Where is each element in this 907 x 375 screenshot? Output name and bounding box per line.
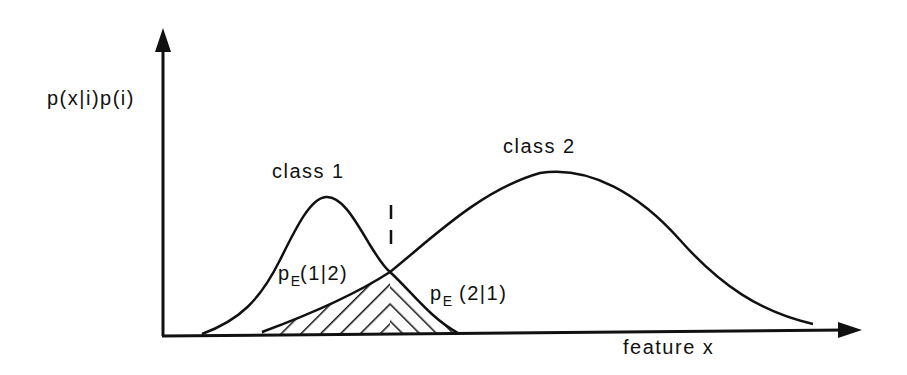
class-2-label: class 2: [503, 135, 576, 158]
x-axis-label: feature x: [623, 336, 714, 359]
error-right-p: p: [430, 282, 443, 304]
y-axis-label: p(x|i)p(i): [47, 87, 135, 110]
error-left-sub: E: [291, 273, 300, 289]
diagram-canvas: [0, 0, 907, 375]
error-label-left: pE(1|2): [278, 262, 348, 285]
error-right-sub: E: [443, 293, 452, 309]
class-1-label: class 1: [272, 160, 345, 183]
error-right-args: (2|1): [452, 282, 507, 304]
error-label-right: pE (2|1): [430, 282, 507, 305]
error-left-args: (1|2): [300, 262, 348, 284]
y-axis-arrow-icon: [155, 28, 171, 52]
x-axis-arrow-icon: [838, 322, 862, 338]
error-left-p: p: [278, 262, 291, 284]
